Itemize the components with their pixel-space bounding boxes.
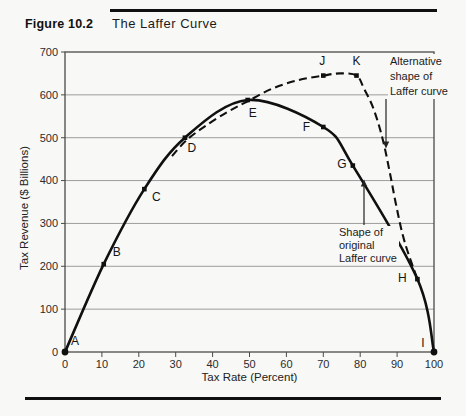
x-tick-label: 70 — [317, 358, 329, 370]
point-label-H: H — [398, 271, 407, 285]
point-marker — [321, 125, 326, 130]
y-tick-label: 300 — [40, 217, 58, 229]
axis-box — [65, 52, 434, 352]
x-tick-label: 30 — [170, 358, 182, 370]
x-tick-label: 80 — [354, 358, 366, 370]
point-marker — [183, 135, 188, 140]
annotation-line: Laffer curve — [339, 252, 397, 265]
x-tick-label: 10 — [96, 358, 108, 370]
y-tick-label: 200 — [40, 260, 58, 272]
point-label-I: I — [421, 336, 424, 350]
point-marker — [62, 349, 69, 356]
annotation-line: Alternative — [390, 54, 448, 69]
x-tick-label: 20 — [133, 358, 145, 370]
textbook-figure-page: Figure 10.2 The Laffer Curve 01020304050… — [0, 0, 466, 416]
annotation-line: Laffer curve — [390, 84, 448, 99]
footer-rule — [25, 397, 441, 400]
x-tick-label: 50 — [243, 358, 255, 370]
annotation-alternative: Alternativeshape ofLaffer curve — [388, 54, 450, 99]
annotation-line: original — [339, 239, 397, 252]
point-marker — [415, 277, 420, 282]
point-label-F: F — [303, 120, 310, 134]
point-label-D: D — [188, 141, 197, 155]
annotation-original: Shape oforiginalLaffer curve — [337, 226, 399, 265]
x-tick-label: 90 — [391, 358, 403, 370]
y-tick-label: 700 — [40, 46, 58, 58]
y-tick-label: 600 — [40, 89, 58, 101]
x-tick-label: 40 — [206, 358, 218, 370]
y-tick-label: 500 — [40, 132, 58, 144]
x-tick-label: 60 — [280, 358, 292, 370]
point-label-J: J — [319, 54, 325, 68]
point-label-G: G — [337, 157, 346, 171]
y-tick-label: 400 — [40, 174, 58, 186]
point-label-K: K — [353, 54, 361, 68]
x-tick-label: 100 — [425, 358, 443, 370]
point-label-E: E — [249, 106, 257, 120]
point-marker — [142, 187, 147, 192]
point-marker — [101, 262, 106, 267]
annotation-line: shape of — [390, 69, 448, 84]
x-axis-title: Tax Rate (Percent) — [65, 371, 434, 383]
point-marker — [354, 73, 359, 78]
y-tick-label: 100 — [40, 303, 58, 315]
y-tick-label: 0 — [52, 346, 58, 358]
point-label-C: C — [152, 190, 161, 204]
point-label-A: A — [71, 334, 79, 348]
point-marker — [321, 73, 326, 78]
point-marker — [431, 349, 438, 356]
annotation-arrowhead-alternative — [383, 142, 389, 149]
point-label-B: B — [113, 245, 121, 259]
point-marker — [351, 163, 356, 168]
point-marker — [245, 98, 250, 103]
x-tick-label: 0 — [62, 358, 68, 370]
annotation-line: Shape of — [339, 226, 397, 239]
y-axis-title: Tax Revenue ($ Billions) — [18, 103, 30, 313]
